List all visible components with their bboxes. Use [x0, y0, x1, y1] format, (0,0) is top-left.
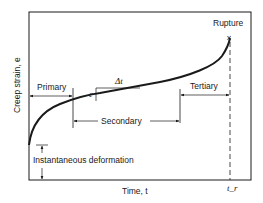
- creep-curve-diagram: × Rupture Primary Secondary Δt e Tertiar…: [0, 0, 263, 203]
- rupture-marker: ×: [227, 33, 232, 43]
- primary-label: Primary: [37, 82, 67, 92]
- delta-t-label: Δt: [114, 76, 123, 86]
- rupture-label: Rupture: [213, 18, 244, 28]
- secondary-label: Secondary: [101, 116, 142, 126]
- y-axis-label: Creep strain, e: [12, 57, 22, 113]
- rupture-time-label: t_r: [227, 183, 238, 193]
- x-axis-label: Time, t: [122, 186, 148, 196]
- delta-e-label: e: [89, 89, 93, 99]
- tertiary-label: Tertiary: [190, 81, 219, 91]
- instantaneous-label: Instantaneous deformation: [33, 155, 134, 165]
